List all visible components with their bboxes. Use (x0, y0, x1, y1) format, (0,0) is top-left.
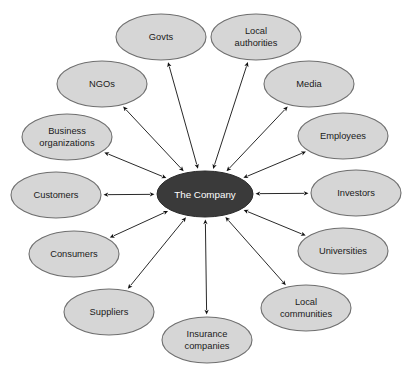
connector-employees (248, 153, 302, 176)
node-local-authorities[interactable]: Localauthorities (211, 14, 301, 60)
node-label-investors: Investors (337, 188, 375, 198)
node-employees[interactable]: Employees (298, 113, 388, 159)
node-label-suppliers: Suppliers (90, 307, 129, 317)
node-insurance-companies[interactable]: Insurancecompanies (162, 317, 252, 363)
node-local-communities[interactable]: Localcommunities (261, 285, 351, 331)
node-the-company[interactable]: The Company (157, 171, 253, 217)
center-node-label: The Company (174, 189, 236, 200)
connector-media (230, 110, 285, 168)
node-business-organizations[interactable]: Businessorganizations (22, 114, 112, 160)
center-node-layer: The Company (157, 171, 253, 217)
node-label-media: Media (296, 79, 322, 89)
node-label-ngos: NGOs (89, 79, 115, 89)
node-media[interactable]: Media (264, 61, 354, 107)
diagram-canvas: GovtsLocalauthoritiesMediaEmployeesInves… (0, 0, 410, 371)
connector-business-organizations (108, 154, 162, 176)
node-customers[interactable]: Customers (11, 172, 101, 218)
node-investors[interactable]: Investors (311, 170, 401, 216)
connector-local-communities (228, 220, 282, 281)
node-universities[interactable]: Universities (298, 228, 388, 274)
node-label-govts: Govts (149, 32, 174, 42)
connector-universities (248, 212, 302, 234)
node-label-insurance-companies: Insurancecompanies (185, 329, 230, 350)
node-govts[interactable]: Govts (116, 14, 206, 60)
node-label-customers: Customers (34, 190, 79, 200)
node-label-universities: Universities (319, 246, 367, 256)
connector-govts (169, 67, 196, 165)
node-suppliers[interactable]: Suppliers (64, 289, 154, 335)
connector-local-authorities (215, 66, 247, 164)
stakeholder-diagram: GovtsLocalauthoritiesMediaEmployeesInves… (0, 0, 410, 371)
node-label-consumers: Consumers (50, 249, 98, 259)
node-consumers[interactable]: Consumers (29, 231, 119, 277)
node-ngos[interactable]: NGOs (57, 61, 147, 107)
connector-ngos (126, 110, 180, 168)
node-label-employees: Employees (320, 131, 366, 141)
connector-insurance-companies (205, 224, 206, 310)
connector-suppliers (131, 221, 183, 285)
connector-consumers (114, 213, 164, 236)
